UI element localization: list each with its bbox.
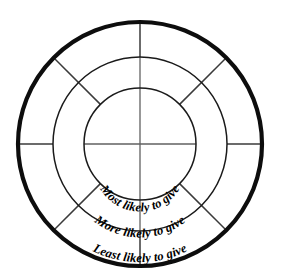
ring-diagram-canvas: Most likely to give More likely to give …: [0, 0, 283, 280]
concentric-ring-wheel: Most likely to give More likely to give …: [0, 0, 283, 280]
